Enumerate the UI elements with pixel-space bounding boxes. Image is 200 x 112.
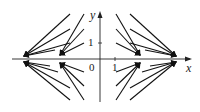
origin-label: 0: [89, 62, 95, 73]
x-axis-label: x: [186, 62, 191, 74]
y-tick-label: 1: [88, 37, 94, 48]
vector-field-figure: [0, 0, 200, 112]
y-axis-arrowhead-icon: [98, 11, 103, 18]
x-tick-label: 1: [112, 62, 118, 73]
y-axis-label: y: [90, 9, 95, 21]
